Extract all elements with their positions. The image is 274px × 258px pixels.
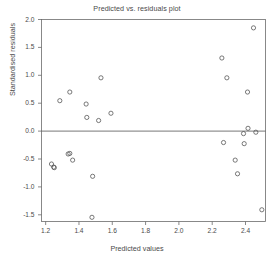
x-tick-label: 1.8: [131, 227, 161, 234]
data-point: [99, 76, 103, 80]
data-point: [241, 132, 245, 136]
data-point: [85, 115, 89, 119]
y-tick-label: 1.5: [13, 43, 35, 50]
data-point: [251, 26, 255, 30]
data-point: [97, 118, 101, 122]
data-point: [71, 158, 75, 162]
data-point: [84, 102, 88, 106]
x-tick-label: 1.4: [64, 227, 94, 234]
x-axis-label: Predicted values: [0, 244, 274, 253]
x-tick-label: 2.4: [231, 227, 261, 234]
data-point: [245, 90, 249, 94]
y-tick-label: 1.0: [13, 71, 35, 78]
y-tick-label: 2.0: [13, 16, 35, 23]
y-tick-label: -1.5: [13, 211, 35, 218]
data-points: [49, 26, 264, 220]
x-tick-label: 2.2: [197, 227, 227, 234]
x-tick-label: 1.2: [31, 227, 61, 234]
data-point: [235, 172, 239, 176]
data-point: [242, 142, 246, 146]
x-tick-label: 1.6: [97, 227, 127, 234]
data-point: [225, 76, 229, 80]
y-tick-label: -1.0: [13, 183, 35, 190]
plot-area: [0, 0, 274, 258]
y-tick-label: 0.0: [13, 127, 35, 134]
y-tick-label: -0.5: [13, 155, 35, 162]
data-point: [260, 208, 264, 212]
data-point: [233, 158, 237, 162]
data-point: [91, 174, 95, 178]
scatter-chart: Predicted vs. residuals plot Standardise…: [0, 0, 274, 258]
data-point: [109, 111, 113, 115]
data-point: [221, 140, 225, 144]
data-point: [58, 99, 62, 103]
data-point: [68, 90, 72, 94]
x-tick-label: 2.0: [164, 227, 194, 234]
data-point: [90, 215, 94, 219]
data-point: [220, 56, 224, 60]
y-tick-label: 0.5: [13, 99, 35, 106]
data-point: [246, 126, 250, 130]
